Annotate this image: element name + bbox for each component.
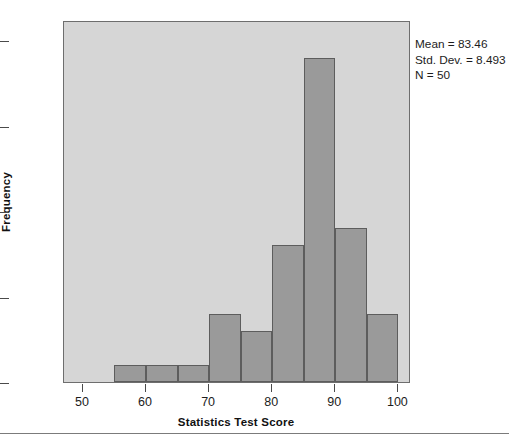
histogram-bar [272, 245, 304, 382]
histogram-bar [114, 365, 146, 382]
histogram-bar [335, 228, 367, 382]
histogram-figure: Frequency 05101520 Statistics Test Score… [0, 0, 509, 447]
y-axis-tick [0, 41, 9, 42]
histogram-bar [367, 314, 399, 382]
stats-annotation: Mean = 83.46Std. Dev. = 8.493N = 50 [415, 37, 506, 84]
y-axis: Frequency 05101520 [0, 0, 63, 447]
x-axis-tick-label: 80 [264, 395, 278, 409]
histogram-bar [241, 331, 273, 382]
y-axis-title: Frequency [0, 172, 12, 232]
x-axis-title: Statistics Test Score [178, 416, 294, 428]
bottom-divider [0, 433, 509, 434]
histogram-bar [178, 365, 210, 382]
plot-area [63, 21, 410, 383]
y-axis-tick [0, 212, 9, 213]
stats-annotation-line: Mean = 83.46 [415, 37, 506, 53]
histogram-bar [209, 314, 241, 382]
x-axis-tick [208, 384, 209, 392]
stats-annotation-line: N = 50 [415, 68, 506, 84]
x-axis-tick [82, 384, 83, 392]
x-axis-tick-label: 50 [75, 395, 89, 409]
x-axis-tick [271, 384, 272, 392]
x-axis: Statistics Test Score 5060708090100 [0, 383, 509, 447]
x-axis-tick-label: 70 [201, 395, 215, 409]
stats-annotation-line: Std. Dev. = 8.493 [415, 53, 506, 69]
x-axis-tick [397, 384, 398, 392]
x-axis-tick-label: 60 [138, 395, 152, 409]
x-axis-tick-label: 100 [387, 395, 408, 409]
x-axis-tick [145, 384, 146, 392]
histogram-bar [304, 58, 336, 382]
x-axis-tick-label: 90 [327, 395, 341, 409]
x-axis-tick [334, 384, 335, 392]
histogram-bar [146, 365, 178, 382]
y-axis-tick [0, 298, 9, 299]
y-axis-tick [0, 127, 9, 128]
